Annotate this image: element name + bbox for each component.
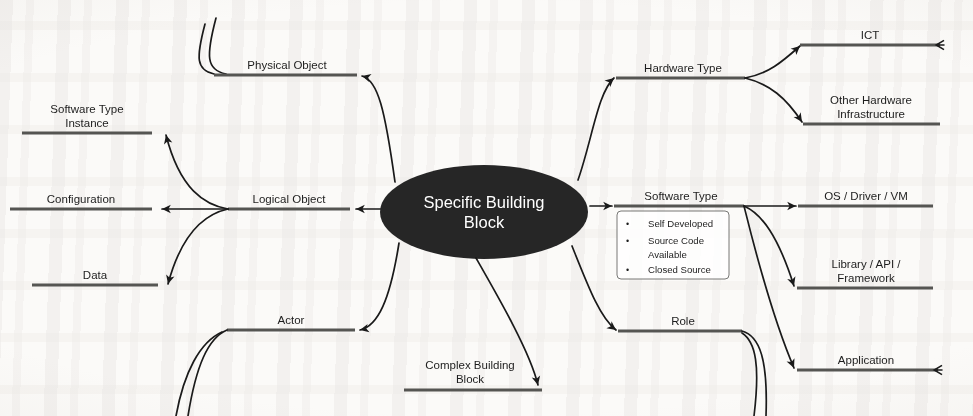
connector-role-bottom-b <box>742 333 757 416</box>
note-bullet-1-icon: • <box>626 219 629 229</box>
connector-actor-bottom-b <box>176 332 222 416</box>
connector-role-bottom-a <box>742 331 766 416</box>
node-label-role: Role <box>671 315 695 327</box>
node-label-software-type-instance-line2: Instance <box>65 117 108 129</box>
connector-center-to-role <box>572 246 616 330</box>
note-item-2-line1: Source Code <box>648 235 704 246</box>
central-node-label-line2: Block <box>464 213 505 231</box>
node-label-hardware-type: Hardware Type <box>644 62 722 74</box>
note-item-3-line1: Closed Source <box>648 264 711 275</box>
node-label-software-type: Software Type <box>644 190 717 202</box>
note-item-1-line1: Self Developed <box>648 218 713 229</box>
connector-logical-to-software-type-instance <box>166 135 228 209</box>
note-bullet-2-icon: • <box>626 236 629 246</box>
node-label-library-api-line1: Library / API / <box>831 258 901 270</box>
diagram-page: Physical Object Logical Object Software … <box>0 0 973 416</box>
node-label-application: Application <box>838 354 894 366</box>
node-label-complex-building-block-line1: Complex Building <box>425 359 515 371</box>
node-label-logical-object: Logical Object <box>253 193 327 205</box>
node-label-physical-object: Physical Object <box>247 59 327 71</box>
connector-logical-to-data <box>168 209 228 284</box>
connector-hardware-type-to-other-hardware <box>745 78 802 122</box>
connector-center-to-actor <box>360 243 399 330</box>
node-label-configuration: Configuration <box>47 193 115 205</box>
node-label-data: Data <box>83 269 108 281</box>
note-item-2-line2: Available <box>648 249 687 260</box>
central-node-specific-building-block <box>380 165 588 259</box>
connector-center-to-physical-object <box>362 76 395 182</box>
connector-software-type-to-library-api <box>744 206 794 286</box>
node-label-actor: Actor <box>278 314 305 326</box>
node-label-other-hardware-line1: Other Hardware <box>830 94 912 106</box>
node-label-os-driver-vm: OS / Driver / VM <box>824 190 908 202</box>
mind-map-canvas: Physical Object Logical Object Software … <box>0 0 973 416</box>
central-node-label-line1: Specific Building <box>423 193 544 211</box>
connector-center-to-hardware-type <box>578 78 614 180</box>
node-label-library-api-line2: Framework <box>837 272 895 284</box>
node-label-ict: ICT <box>861 29 880 41</box>
note-bullet-3-icon: • <box>626 265 629 275</box>
connector-physical-object-top-b <box>209 18 226 74</box>
node-label-complex-building-block-line2: Block <box>456 373 484 385</box>
node-label-other-hardware-line2: Infrastructure <box>837 108 905 120</box>
node-label-software-type-instance-line1: Software Type <box>50 103 123 115</box>
connector-hardware-type-to-ict <box>745 46 800 78</box>
